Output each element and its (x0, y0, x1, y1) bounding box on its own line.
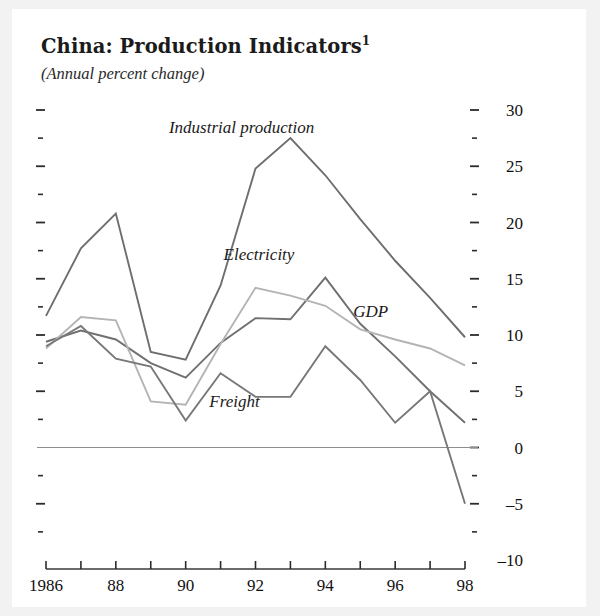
x-axis-tick-label: 92 (247, 576, 264, 595)
y-axis-tick-label: 15 (506, 270, 523, 289)
y-axis-tick-label: –10 (497, 551, 524, 570)
y-axis-tick-label: 0 (515, 439, 524, 458)
series-inline-labels: Industrial productionElectricityGDPFreig… (168, 118, 388, 412)
series-line-gdp (46, 288, 465, 405)
series-line-freight (46, 326, 465, 504)
x-axis-tick-label: 98 (457, 576, 474, 595)
y-axis-tick-label: 5 (515, 382, 524, 401)
x-axis-tick-label: 94 (317, 576, 335, 595)
x-axis-tick-label: 96 (387, 576, 404, 595)
x-axis-tick-labels: 1986889092949698 (29, 576, 474, 595)
x-axis-tick-label: 90 (177, 576, 194, 595)
y-axis-tick-label: 10 (506, 326, 523, 345)
series-label-freight: Freight (208, 392, 261, 411)
y-axis-tick-labels: –10–5051015202530 (497, 101, 524, 570)
series-label-industrial-production: Industrial production (168, 118, 314, 137)
y-axis-tick-label: –5 (505, 495, 523, 514)
line-chart-svg: –10–5051015202530 Industrial productionE… (12, 9, 586, 607)
x-axis-ticks (46, 561, 465, 569)
y-axis-tick-label: 20 (506, 214, 523, 233)
series-label-gdp: GDP (353, 302, 388, 321)
y-axis-tick-label: 30 (506, 101, 523, 120)
series-label-electricity: Electricity (223, 245, 295, 264)
x-axis-tick-label: 1986 (29, 576, 63, 595)
data-series-group (46, 138, 465, 504)
x-axis-tick-label: 88 (107, 576, 124, 595)
figure-card: China: Production Indicators1 (Annual pe… (12, 9, 586, 607)
chart-plot-area: –10–5051015202530 Industrial productionE… (12, 9, 586, 607)
y-axis-tick-label: 25 (506, 157, 523, 176)
